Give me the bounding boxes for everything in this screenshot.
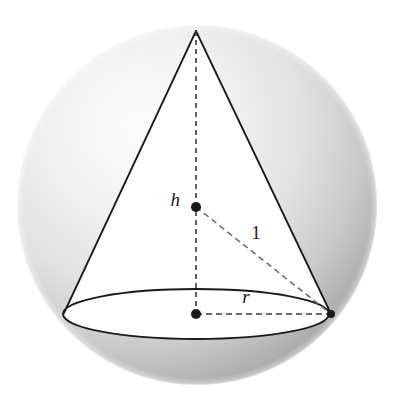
- height-label: h: [171, 189, 181, 210]
- base-right-vertex-dot: [327, 310, 335, 318]
- cone-inscribed-in-sphere-diagram: h 1 r: [0, 0, 399, 406]
- radius-label: r: [242, 286, 250, 307]
- base-center-dot: [191, 309, 201, 319]
- slant-length-label: 1: [251, 222, 261, 243]
- sphere-center-dot: [191, 202, 201, 212]
- figure-canvas: h 1 r: [0, 0, 399, 406]
